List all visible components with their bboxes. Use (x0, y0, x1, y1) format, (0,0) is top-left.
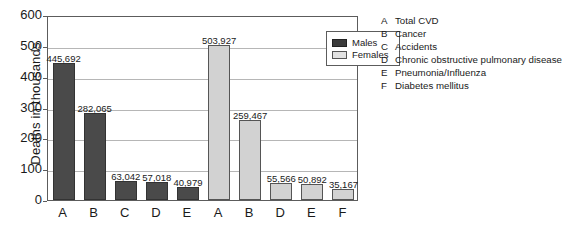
y-tick-400: 400 (20, 69, 42, 84)
bar-value-label-males-A: 445,692 (46, 53, 80, 64)
gridline-400 (48, 79, 357, 80)
bar-males-C (115, 181, 137, 200)
x-tick-males-C: C (120, 205, 129, 220)
bar-males-A (53, 63, 75, 200)
y-tick-200: 200 (20, 130, 42, 145)
key-text-E: Pneumonia/Influenza (395, 66, 486, 79)
bar-value-label-females-B: 259,467 (233, 110, 267, 121)
bar-value-label-males-D: 57,018 (142, 172, 171, 183)
x-tick-females-B: B (245, 205, 254, 220)
y-tick-100: 100 (20, 161, 42, 176)
y-axis-tick-labels: 0100200300400500600 (0, 16, 47, 201)
x-tick-females-A: A (214, 205, 223, 220)
key-entry-B: BCancer (381, 27, 562, 40)
key-text-A: Total CVD (395, 14, 439, 27)
key-letter-E: E (381, 66, 389, 79)
bar-value-label-females-A: 503,927 (202, 35, 236, 46)
y-tick-600: 600 (20, 7, 42, 22)
x-tick-males-D: D (151, 205, 160, 220)
y-tick-500: 500 (20, 38, 42, 53)
x-tick-males-E: E (183, 205, 192, 220)
key-text-B: Cancer (395, 27, 426, 40)
legend-label-males: Males (352, 37, 377, 48)
bar-value-label-females-E: 50,892 (298, 174, 327, 185)
key-letter-B: B (381, 27, 389, 40)
bar-value-label-males-C: 63,042 (111, 171, 140, 182)
x-tick-males-B: B (89, 205, 98, 220)
bar-females-E (301, 184, 323, 200)
x-tick-males-A: A (58, 205, 67, 220)
x-tick-females-F: F (338, 205, 346, 220)
y-tick-mark-0 (43, 201, 47, 202)
bar-males-E (177, 187, 199, 200)
key-text-D: Chronic obstructive pulmonary disease (395, 53, 562, 66)
bar-females-D (270, 183, 292, 200)
key-letter-F: F (381, 79, 389, 92)
key-entry-A: ATotal CVD (381, 14, 562, 27)
key-entry-E: EPneumonia/Influenza (381, 66, 562, 79)
bar-value-label-males-E: 40,979 (173, 177, 202, 188)
x-tick-females-D: D (276, 205, 285, 220)
key-letter-A: A (381, 14, 389, 27)
legend-swatch-males (332, 39, 347, 47)
bar-males-B (84, 113, 106, 200)
y-tick-0: 0 (35, 192, 42, 207)
key-entry-F: FDiabetes mellitus (381, 79, 562, 92)
category-key: ATotal CVDBCancerCAccidentsDChronic obst… (381, 14, 562, 93)
bar-value-label-females-F: 35,167 (329, 179, 358, 190)
key-entry-D: DChronic obstructive pulmonary disease (381, 53, 562, 66)
x-tick-females-E: E (307, 205, 316, 220)
bar-females-F (332, 189, 354, 200)
y-tick-300: 300 (20, 100, 42, 115)
bar-females-B (239, 120, 261, 200)
bar-value-label-males-B: 282,065 (77, 103, 111, 114)
key-text-C: Accidents (395, 40, 437, 53)
bar-value-label-females-D: 55,566 (267, 173, 296, 184)
key-text-F: Diabetes mellitus (395, 79, 469, 92)
plot-area: 445,692282,06563,04257,01840,979503,9272… (47, 16, 358, 201)
legend-swatch-females (332, 51, 347, 59)
key-letter-C: C (381, 40, 389, 53)
bar-females-A (208, 45, 230, 200)
key-entry-C: CAccidents (381, 40, 562, 53)
gridline-500 (48, 48, 357, 49)
key-letter-D: D (381, 53, 389, 66)
bar-males-D (146, 182, 168, 200)
